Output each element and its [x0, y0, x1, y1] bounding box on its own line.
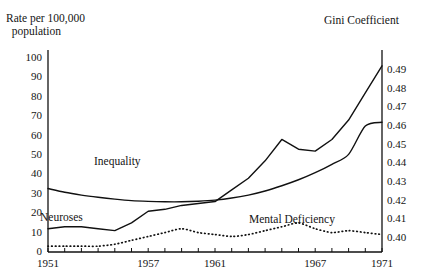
series-path-neuroses	[48, 66, 382, 231]
plot-area	[0, 0, 430, 278]
axis-tick-marks	[48, 248, 382, 252]
series-label-mental-deficiency: Mental Deficiency	[249, 213, 335, 225]
series-label-neuroses: Neuroses	[40, 211, 83, 223]
chart-container: Rate per 100,000 population Gini Coeffic…	[0, 0, 430, 278]
series-label-inequality: Inequality	[94, 155, 141, 167]
series-path-mental-deficiency	[48, 223, 382, 246]
